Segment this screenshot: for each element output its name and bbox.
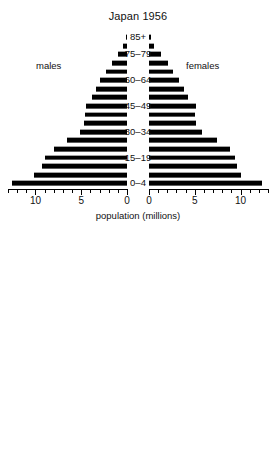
axis-tick-minor <box>250 189 251 193</box>
japan-females-label: females <box>186 60 219 71</box>
axis-tick-minor <box>268 189 269 193</box>
axis-tick-minor <box>100 189 101 193</box>
females-bar <box>149 87 184 92</box>
males-bar-cell <box>0 110 127 119</box>
females-bar <box>149 69 173 74</box>
males-bar <box>96 87 127 92</box>
males-bar <box>42 164 127 169</box>
axis-tick-minor <box>8 189 9 193</box>
japan-plot-area: 85+75–7960–6445–4930–3415–190–4 <box>0 33 276 188</box>
females-bar-cell <box>149 162 276 171</box>
axis-tick-minor <box>90 189 91 193</box>
axis-tick-minor <box>158 189 159 193</box>
axis-tick-label: 10 <box>235 195 246 206</box>
females-bar <box>149 147 230 152</box>
males-bar <box>34 172 127 177</box>
pyramid-row: 85+ <box>0 33 276 42</box>
axis-tick-minor <box>72 189 73 193</box>
males-bar <box>112 61 127 66</box>
axis-tick-minor <box>63 189 64 193</box>
axis-tick-label: 0 <box>146 195 152 206</box>
japan-chart-title: Japan 1956 <box>0 10 276 22</box>
axis-tick-minor <box>45 189 46 193</box>
axis-tick-minor <box>26 189 27 193</box>
males-bar <box>123 44 127 49</box>
males-bar <box>85 112 127 117</box>
axis-tick-minor <box>186 189 187 193</box>
females-bar <box>149 164 237 169</box>
males-bar <box>67 138 127 143</box>
axis-tick-label: 5 <box>192 195 198 206</box>
pyramid-row: 30–34 <box>0 128 276 137</box>
males-bar <box>54 147 127 152</box>
males-bar-cell <box>0 59 127 68</box>
axis-tick-label: 0 <box>124 195 130 206</box>
pyramid-row: 15–19 <box>0 153 276 162</box>
pyramid-row <box>0 85 276 94</box>
axis-tick-minor <box>259 189 260 193</box>
females-bar-cell <box>149 110 276 119</box>
females-bar <box>149 112 195 117</box>
males-bar <box>84 121 127 126</box>
females-bar-cell <box>149 85 276 94</box>
japan-males-label: males <box>36 60 61 71</box>
pyramid-row: 60–64 <box>0 76 276 85</box>
males-bar-cell <box>0 162 127 171</box>
axis-tick-minor <box>17 189 18 193</box>
females-bar <box>149 95 188 100</box>
females-bar <box>149 61 168 66</box>
females-bar <box>149 172 241 177</box>
axis-tick-label: 5 <box>78 195 84 206</box>
axis-tick-minor <box>213 189 214 193</box>
axis-tick-minor <box>176 189 177 193</box>
males-bar <box>92 95 127 100</box>
females-bar <box>149 44 154 49</box>
population-pyramids-figure: Japan 1956 85+75–7960–6445–4930–3415–190… <box>0 0 276 454</box>
males-bar-cell <box>0 136 127 145</box>
age-group-label: 0–4 <box>0 179 276 189</box>
pyramid-row: 45–49 <box>0 102 276 111</box>
males-bar-cell <box>0 85 127 94</box>
axis-tick-label: 10 <box>30 195 41 206</box>
japan-population-pyramid: Japan 1956 85+75–7960–6445–4930–3415–190… <box>0 0 276 230</box>
france-population-pyramid: France 1956 85+75–7960–6445–4930–3415–19… <box>0 230 276 454</box>
males-bar <box>106 69 127 74</box>
axis-tick-minor <box>118 189 119 193</box>
pyramid-row <box>0 162 276 171</box>
axis-tick-minor <box>231 189 232 193</box>
females-bar-cell <box>149 136 276 145</box>
axis-tick-minor <box>109 189 110 193</box>
pyramid-row <box>0 110 276 119</box>
x-axis-title: population (millions) <box>0 210 276 221</box>
axis-tick-minor <box>204 189 205 193</box>
japan-x-axis-right: 0510 <box>149 189 268 203</box>
axis-tick-minor <box>167 189 168 193</box>
pyramid-row <box>0 136 276 145</box>
pyramid-row: 75–79 <box>0 50 276 59</box>
axis-tick-minor <box>222 189 223 193</box>
pyramid-row: 0–4 <box>0 179 276 188</box>
females-bar <box>149 138 217 143</box>
axis-tick-minor <box>54 189 55 193</box>
females-bar <box>149 121 196 126</box>
japan-x-axis-left: 1050 <box>8 189 127 203</box>
